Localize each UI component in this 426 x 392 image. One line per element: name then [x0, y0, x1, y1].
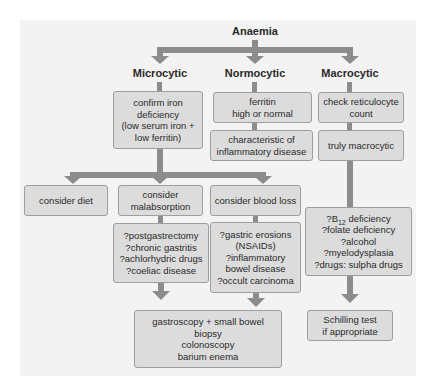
box-truly-macrocytic: truly macrocytic	[318, 130, 404, 161]
box-line: bowel disease	[225, 263, 285, 275]
arrow-down-icon	[254, 176, 272, 184]
box-consider-malabsorption: consider malabsorption	[118, 185, 203, 216]
box-blood-loss-causes: ?gastric erosions (NSAIDs) ?inflammatory…	[210, 222, 301, 293]
box-line: low ferritin)	[135, 132, 181, 144]
box-line: ?myelodysplasia	[323, 247, 393, 259]
box-line: if appropriate	[322, 326, 377, 338]
box-line: Schilling test	[323, 314, 376, 326]
b12-prefix: ?B	[326, 213, 338, 224]
box-line: ?postgastrectomy	[124, 230, 199, 242]
box-line: ?alcohol	[341, 236, 376, 248]
root-title: Anaemia	[225, 25, 285, 37]
box-line: ?folate deficiency	[322, 224, 395, 236]
box-line: inflammatory disease	[217, 146, 307, 158]
box-line: high or normal	[232, 108, 293, 120]
box-line: confirm iron	[133, 97, 183, 109]
category-normocytic: Normocytic	[215, 67, 295, 79]
box-line: ?inflammatory	[226, 252, 286, 264]
box-line: barium enema	[178, 351, 239, 363]
box-line: ferritin	[249, 96, 275, 108]
box-malabsorption-causes: ?postgastrectomy ?chronic gastritis ?ach…	[113, 223, 209, 283]
arrow-down-icon	[151, 176, 169, 184]
category-macrocytic: Macrocytic	[310, 67, 390, 79]
arrow-down-icon	[151, 56, 169, 64]
box-line: check reticulocyte	[323, 96, 399, 108]
box-investigations: gastroscopy + small bowel biopsy colonos…	[134, 310, 282, 368]
box-consider-diet: consider diet	[24, 185, 108, 216]
box-line: ?achlorhydric drugs	[120, 253, 203, 265]
arrow-down-icon	[152, 291, 170, 300]
category-microcytic: Microcytic	[120, 67, 200, 79]
arrow-down-icon	[341, 294, 359, 303]
box-line: ?coeliac disease	[126, 265, 196, 277]
box-confirm-iron-deficiency: confirm iron deficiency (low serum iron …	[113, 91, 203, 149]
arrow-down-icon	[64, 176, 82, 184]
box-line: consider	[143, 189, 179, 201]
box-check-reticulocyte: check reticulocyte count	[318, 92, 404, 123]
box-characteristic-inflammatory: characteristic of inflammatory disease	[210, 130, 313, 161]
box-line: (NSAIDs)	[235, 240, 275, 252]
box-line: consider blood loss	[215, 195, 296, 207]
box-line: characteristic of	[228, 134, 295, 146]
arrow-down-icon	[247, 298, 265, 307]
box-line: truly macrocytic	[328, 140, 394, 152]
box-line: biopsy	[194, 328, 221, 340]
box-line: ?drugs: sulpha drugs	[314, 259, 403, 271]
arrow-down-icon	[341, 56, 359, 64]
box-line: deficiency	[137, 109, 179, 121]
box-line-b12: ?B12 deficiency	[326, 213, 390, 225]
b12-suffix: deficiency	[346, 213, 391, 224]
box-line: (low serum iron +	[121, 120, 194, 132]
box-line: ?gastric erosions	[220, 229, 292, 241]
box-line: gastroscopy + small bowel	[152, 316, 264, 328]
box-line: consider diet	[39, 195, 93, 207]
box-ferritin: ferritin high or normal	[213, 92, 312, 123]
box-line: malabsorption	[131, 201, 191, 213]
box-schilling-test: Schilling test if appropriate	[307, 310, 393, 341]
box-line: ?occult carcinoma	[217, 275, 294, 287]
box-line: count	[349, 108, 372, 120]
box-line: colonoscopy	[182, 339, 235, 351]
box-consider-blood-loss: consider blood loss	[210, 185, 301, 216]
arrow-down-icon	[246, 56, 264, 64]
box-line: ?chronic gastritis	[125, 242, 196, 254]
box-macrocytic-causes: ?B12 deficiency ?folate deficiency ?alco…	[305, 207, 412, 276]
